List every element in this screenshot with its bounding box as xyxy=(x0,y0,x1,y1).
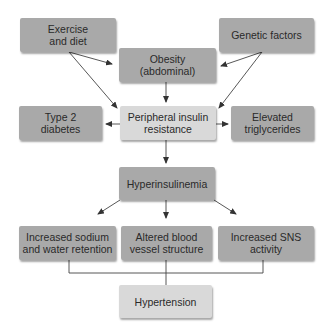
node-type-2-diabetes: Type 2diabetes xyxy=(19,106,102,140)
node-text: Genetic factors xyxy=(231,29,302,41)
node-text: Type 2 xyxy=(45,111,77,123)
node-text: Hyperinsulinemia xyxy=(127,178,208,190)
arrow-genetic-insulin xyxy=(219,52,262,108)
node-text: Increased SNS xyxy=(231,231,302,243)
node-text: and diet xyxy=(49,35,86,47)
node-altered-blood-vessel: Altered bloodvessel structure xyxy=(121,226,212,260)
node-hypertension: Hypertension xyxy=(119,285,212,318)
node-increased-sodium: Increased sodiumand water retention xyxy=(19,226,116,260)
node-hyperinsulinemia: Hyperinsulinemia xyxy=(119,167,215,200)
node-text: vessel structure xyxy=(130,243,204,255)
node-text: Hypertension xyxy=(135,296,197,308)
arrow-genetic-obesity xyxy=(221,52,262,66)
arrow-exercise-obesity xyxy=(69,52,112,64)
node-elevated-triglycerides: Elevatedtriglycerides xyxy=(231,106,314,140)
node-exercise-and-diet: Exerciseand diet xyxy=(20,18,116,52)
node-text: Elevated xyxy=(252,111,293,123)
node-genetic-factors: Genetic factors xyxy=(219,18,314,52)
node-text: and water retention xyxy=(23,243,113,255)
node-text: diabetes xyxy=(41,123,81,135)
node-text: resistance xyxy=(144,123,192,135)
node-text: triglycerides xyxy=(244,123,300,135)
arrow-hyper-sns xyxy=(214,200,236,214)
node-text: Peripheral insulin xyxy=(128,111,209,123)
node-text: Exercise xyxy=(48,23,88,35)
node-obesity: Obesity(abdominal) xyxy=(119,48,216,82)
node-text: activity xyxy=(250,243,282,255)
arrow-exercise-insulin xyxy=(69,52,117,108)
node-increased-sns: Increased SNSactivity xyxy=(218,226,314,260)
node-peripheral-insulin-resistance: Peripheral insulinresistance xyxy=(120,106,216,140)
node-text: Increased sodium xyxy=(26,231,109,243)
node-text: Altered blood xyxy=(136,231,198,243)
node-text: Obesity xyxy=(150,53,186,65)
node-text: (abdominal) xyxy=(140,65,195,77)
arrow-hyper-sodium xyxy=(98,200,120,214)
